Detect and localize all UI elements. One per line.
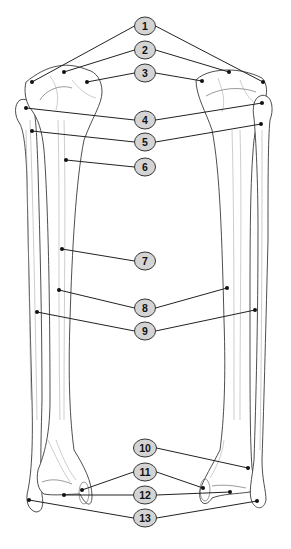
target-dot-5-1 <box>30 129 34 133</box>
target-dot-5-2 <box>259 122 263 126</box>
label-number: 6 <box>142 161 148 173</box>
label-2: 2 <box>135 41 156 59</box>
target-dot-4-2 <box>260 101 264 105</box>
label-number: 10 <box>139 442 151 454</box>
label-6: 6 <box>135 158 156 176</box>
label-number: 2 <box>142 44 148 56</box>
label-8: 8 <box>135 299 156 317</box>
label-number: 5 <box>142 136 148 148</box>
target-dot-10-1 <box>246 466 250 470</box>
target-dot-13-2 <box>255 499 259 503</box>
target-dot-12-1 <box>62 493 66 497</box>
label-number: 11 <box>139 466 150 478</box>
right-fibula <box>250 95 272 508</box>
label-number: 9 <box>142 325 148 337</box>
target-dot-3-1 <box>85 80 89 84</box>
label-number: 3 <box>142 67 148 79</box>
target-dot-8-1 <box>57 288 61 292</box>
target-dot-9-1 <box>35 310 39 314</box>
leader-line-2-1 <box>64 50 135 72</box>
target-dot-2-2 <box>227 70 231 74</box>
label-5: 5 <box>135 133 156 151</box>
target-dot-9-2 <box>253 308 257 312</box>
leader-line-8-2 <box>156 288 228 308</box>
label-4: 4 <box>135 111 156 129</box>
label-number: 8 <box>142 302 148 314</box>
target-dot-4-1 <box>24 106 28 110</box>
label-11: 11 <box>134 463 157 481</box>
label-number: 12 <box>139 489 151 501</box>
label-number: 7 <box>142 255 148 267</box>
target-dot-11-1 <box>80 488 84 492</box>
leader-line-3-2 <box>156 73 203 81</box>
label-number: 1 <box>142 20 148 32</box>
target-dot-6-1 <box>64 158 68 162</box>
label-9: 9 <box>135 322 156 340</box>
label-13: 13 <box>134 509 157 527</box>
target-dot-3-2 <box>200 79 204 83</box>
right-bone-pair <box>196 70 272 508</box>
label-12: 12 <box>134 486 157 504</box>
leader-line-11-2 <box>157 472 204 488</box>
target-dot-8-2 <box>225 286 229 290</box>
target-dot-2-1 <box>62 70 66 74</box>
label-number: 4 <box>142 114 148 126</box>
label-1: 1 <box>135 17 156 35</box>
label-3: 3 <box>135 64 156 82</box>
target-dot-1-2 <box>261 80 265 84</box>
diagram-canvas: 12345678910111213 <box>0 0 291 549</box>
label-10: 10 <box>134 439 157 457</box>
label-number: 13 <box>139 512 151 524</box>
label-7: 7 <box>135 252 156 270</box>
target-dot-1-1 <box>30 80 34 84</box>
target-dot-12-2 <box>228 490 232 494</box>
target-dot-11-2 <box>201 486 205 490</box>
target-dot-7-1 <box>60 247 64 251</box>
leader-line-2-2 <box>156 50 230 72</box>
number-labels: 12345678910111213 <box>134 17 157 527</box>
tibia-fibula-diagram: 12345678910111213 <box>0 0 291 549</box>
target-dot-13-1 <box>27 498 31 502</box>
